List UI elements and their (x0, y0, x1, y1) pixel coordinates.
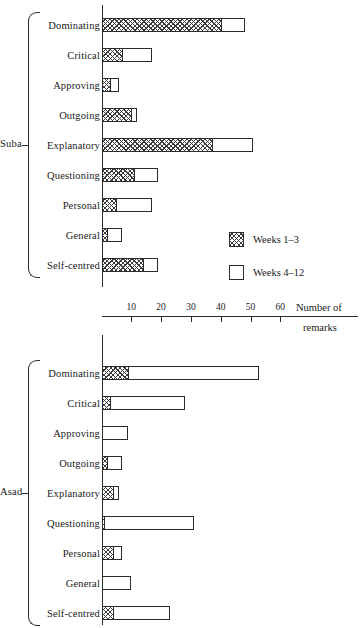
bar-row: Approving (0, 70, 360, 100)
row-label-explanatory: Explanatory (47, 488, 100, 499)
bar-segment-weeks-1-3 (102, 606, 114, 620)
x-axis-tick (280, 316, 281, 322)
bar-segment-weeks-4-12 (143, 258, 158, 272)
stacked-bar (102, 426, 129, 440)
row-label-approving: Approving (53, 80, 100, 91)
bar-segment-weeks-4-12 (113, 546, 122, 560)
stacked-bar (102, 576, 132, 590)
bar-row: Explanatory (0, 478, 360, 508)
legend-label-weeks-1-3: Weeks 1–3 (253, 234, 299, 245)
bar-segment-weeks-4-12 (113, 606, 170, 620)
panel-asad: Asad DominatingCriticalApprovingOutgoing… (0, 330, 360, 625)
row-label-wrap: Outgoing (40, 448, 100, 478)
row-label-wrap: Approving (40, 70, 100, 100)
bar-row: Self-centred (0, 250, 360, 280)
x-axis-tick (221, 316, 222, 322)
row-label-wrap: Explanatory (40, 478, 100, 508)
row-label-personal: Personal (63, 548, 100, 559)
bar-segment-weeks-1-3 (102, 108, 132, 122)
stacked-bar (102, 258, 159, 272)
row-label-wrap: Personal (40, 190, 100, 220)
x-axis-title-line1: Number of (296, 302, 342, 313)
bar-row: Questioning (0, 160, 360, 190)
stacked-bar (102, 138, 254, 152)
x-axis-tick (131, 316, 132, 322)
stacked-bar (102, 396, 185, 410)
bar-segment-weeks-1-3 (102, 138, 212, 152)
bar-segment-weeks-4-12 (113, 486, 119, 500)
x-axis-tick-label: 50 (246, 302, 256, 312)
stacked-bar (102, 108, 138, 122)
bar-row: Critical (0, 40, 360, 70)
bar-segment-weeks-4-12 (110, 396, 185, 410)
stacked-bar (102, 606, 171, 620)
stacked-bar (102, 228, 123, 242)
stacked-bar (102, 198, 153, 212)
row-label-outgoing: Outgoing (59, 458, 100, 469)
row-label-approving: Approving (53, 428, 100, 439)
legend-swatch-hatched-icon (229, 232, 244, 247)
bar-segment-weeks-4-12 (128, 366, 259, 380)
bar-row: Approving (0, 418, 360, 448)
bar-row: Explanatory (0, 130, 360, 160)
stacked-bar (102, 456, 123, 470)
row-label-wrap: Outgoing (40, 100, 100, 130)
bar-segment-weeks-4-12 (134, 168, 158, 182)
stacked-bar (102, 546, 123, 560)
x-axis-tick-label: 30 (186, 302, 196, 312)
row-label-self-centred: Self-centred (47, 608, 100, 619)
x-axis-tick-label: 10 (127, 302, 137, 312)
stacked-bar (102, 486, 120, 500)
row-label-wrap: Explanatory (40, 130, 100, 160)
bar-row: Dominating (0, 358, 360, 388)
legend-item-weeks-1-3: Weeks 1–3 (229, 232, 299, 247)
row-label-wrap: Self-centred (40, 598, 100, 628)
bar-row: General (0, 220, 360, 250)
bar-segment-weeks-1-3 (102, 396, 111, 410)
legend-item-weeks-4-12: Weeks 4–12 (229, 265, 304, 280)
row-label-self-centred: Self-centred (47, 260, 100, 271)
bar-segment-weeks-4-12 (122, 48, 152, 62)
row-label-wrap: Critical (40, 388, 100, 418)
bar-segment-weeks-1-3 (102, 366, 129, 380)
bar-segment-weeks-4-12 (107, 228, 122, 242)
row-label-wrap: Self-centred (40, 250, 100, 280)
bar-segment-weeks-1-3 (102, 48, 123, 62)
bar-row: Questioning (0, 508, 360, 538)
row-label-wrap: Personal (40, 538, 100, 568)
row-label-questioning: Questioning (47, 518, 100, 529)
row-label-wrap: Approving (40, 418, 100, 448)
row-label-questioning: Questioning (47, 170, 100, 181)
x-axis-tick (191, 316, 192, 322)
bar-row: Outgoing (0, 100, 360, 130)
bar-row: Dominating (0, 10, 360, 40)
bar-segment-weeks-1-3 (102, 168, 135, 182)
x-axis-tick-label: 40 (216, 302, 226, 312)
row-label-explanatory: Explanatory (47, 140, 100, 151)
bar-row: Self-centred (0, 598, 360, 628)
bar-row: General (0, 568, 360, 598)
bar-segment-weeks-4-12 (116, 198, 152, 212)
bar-segment-weeks-1-3 (102, 78, 111, 92)
x-axis-tick (251, 316, 252, 322)
bar-segment-weeks-4-12 (131, 108, 137, 122)
bar-row: Critical (0, 388, 360, 418)
row-label-wrap: Questioning (40, 508, 100, 538)
bar-row: Personal (0, 538, 360, 568)
bar-segment-weeks-1-3 (102, 258, 144, 272)
row-label-dominating: Dominating (48, 20, 100, 31)
row-label-personal: Personal (63, 200, 100, 211)
bar-segment-weeks-4-12 (102, 426, 129, 440)
stacked-bar (102, 516, 194, 530)
bar-segment-weeks-1-3 (102, 198, 117, 212)
stacked-bar (102, 78, 120, 92)
bar-segment-weeks-4-12 (107, 456, 122, 470)
row-label-wrap: Questioning (40, 160, 100, 190)
bar-segment-weeks-4-12 (110, 78, 119, 92)
bar-segment-weeks-4-12 (212, 138, 254, 152)
row-label-general: General (66, 230, 100, 241)
row-label-outgoing: Outgoing (59, 110, 100, 121)
row-label-wrap: Dominating (40, 10, 100, 40)
bar-row: Outgoing (0, 448, 360, 478)
